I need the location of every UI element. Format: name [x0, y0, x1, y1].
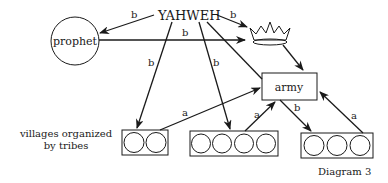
yahweh-node: YAHWEH [157, 8, 221, 23]
army-label: army [275, 81, 304, 94]
prophet-node: prophet [51, 17, 99, 65]
edge-label-village3-army: a [351, 110, 357, 121]
village-group-3 [301, 133, 373, 158]
edge-yahweh-prophet [100, 15, 154, 33]
edge-village2-army [245, 102, 275, 131]
edge-yahweh-village1 [137, 22, 172, 128]
edge-label-yahweh-king: b [230, 9, 236, 20]
edge-yahweh-army [207, 22, 262, 79]
villages-label-line2: by tribes [44, 140, 89, 151]
villages-label-line1: villages organized [19, 128, 113, 139]
edge-king-army [283, 45, 303, 70]
edge-village1-army [160, 88, 260, 130]
village-group-1 [122, 130, 168, 155]
edge-yahweh-village2 [199, 22, 230, 129]
edge-label-yahweh-village2: b [213, 57, 219, 68]
edge-label-yahweh-prophet: b [131, 9, 137, 20]
edge-label-prophet-king: b [182, 27, 188, 38]
army-node: army [262, 73, 317, 100]
edge-label-yahweh-village1: b [148, 57, 154, 68]
prophet-label: prophet [53, 35, 98, 48]
edge-label-village1-army: a [182, 107, 188, 118]
diagram-caption: Diagram 3 [318, 166, 371, 177]
edge-label-army-village3: b [294, 102, 300, 113]
village-group-2 [190, 131, 278, 156]
diagram-canvas: YAHWEH prophet army villages organized b… [0, 0, 388, 183]
edge-label-village2-army: a [254, 109, 260, 120]
crown-icon [250, 22, 290, 45]
